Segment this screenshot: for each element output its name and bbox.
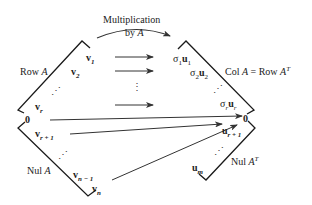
sigma2-u2: σ2u2	[190, 68, 208, 78]
zero-left: 0	[25, 115, 30, 125]
arrow-vr1	[70, 124, 222, 134]
arc-label-line2: by A	[125, 28, 144, 38]
sigmar-ur: σrur	[220, 99, 236, 109]
left-null-space-label: Nul AT	[231, 157, 259, 167]
middle-ellipsis: ⋮	[132, 81, 142, 92]
arc-label-line1: Multiplication	[103, 15, 160, 25]
left-lower-ellipsis: ⋰	[58, 149, 68, 160]
zero-right: 0	[243, 114, 248, 124]
sigma1-u1: σ1u1	[173, 54, 191, 64]
vector-v1: v1	[86, 53, 95, 63]
vector-v2: v2	[71, 67, 80, 77]
col-space-label: Col A = Row AT	[225, 67, 290, 77]
null-space-label: Nul A	[27, 166, 51, 176]
vector-vn: vn	[92, 184, 101, 194]
left-upper-ellipsis: ⋰	[51, 85, 61, 96]
right-lower-ellipsis: ⋰	[214, 145, 224, 156]
arrow-zero	[50, 116, 242, 120]
vector-um: um	[192, 163, 203, 173]
vector-vr1: vr + 1	[35, 129, 54, 139]
right-upper-ellipsis: ⋰	[213, 83, 223, 94]
row-space-label: Row A	[20, 67, 48, 77]
vector-vn-1: vn − 1	[73, 170, 93, 180]
vector-ur1: ur + 1	[222, 126, 241, 136]
svd-diagram: Multiplication by A Row A Nul A v1 v2 ⋰ …	[0, 0, 312, 205]
vector-vr: vr	[35, 102, 43, 112]
